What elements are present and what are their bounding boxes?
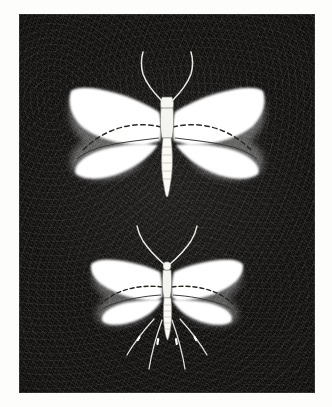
specimen-illustration — [19, 14, 315, 393]
upper-moth-right-antenna — [172, 52, 193, 101]
upper-moth-specimen — [69, 52, 265, 197]
lower-moth-abdomen — [163, 298, 171, 340]
lower-moth-right-forewing — [172, 260, 244, 301]
upper-moth-thorax — [160, 107, 173, 138]
lower-moth-leg-inner-right — [172, 320, 185, 369]
moth-specimen-plate — [19, 14, 315, 393]
lower-moth-left-antenna — [137, 226, 164, 264]
plate-caption — [0, 0, 1, 1]
lower-moth-thorax — [162, 270, 171, 298]
lower-moth-head — [163, 262, 171, 270]
lower-moth-leg-inner-left — [149, 320, 162, 369]
page-root — [0, 0, 332, 407]
upper-moth-left-antenna — [142, 52, 163, 101]
lower-moth-right-antenna — [170, 226, 197, 264]
lower-moth-specimen — [91, 226, 243, 369]
upper-moth-head — [160, 97, 173, 108]
lower-moth-left-forewing — [91, 260, 163, 301]
